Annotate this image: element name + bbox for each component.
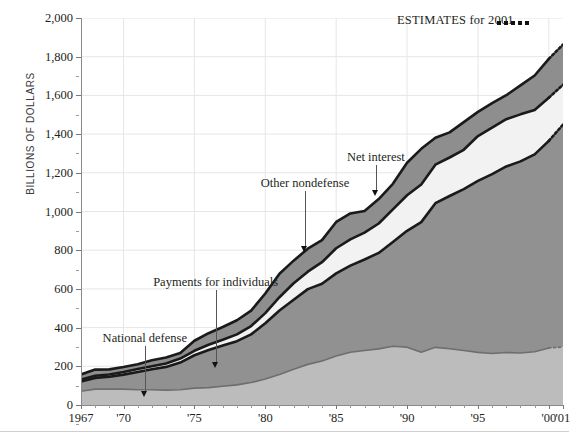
y-axis-tick-label: 1,800: [45, 49, 73, 64]
y-axis-minor-tick: [76, 76, 79, 77]
x-axis-tick-label: '01: [556, 411, 570, 426]
annotation-leader-line: [145, 346, 146, 391]
x-axis-minor-tick: [535, 405, 536, 408]
x-axis-tick-mark: [549, 405, 550, 409]
x-axis-tick-label: '90: [400, 411, 415, 426]
x-axis-tick-label: '70: [116, 411, 131, 426]
y-axis-tick-label: 800: [54, 243, 73, 258]
y-axis-tick-label: 1,200: [45, 165, 73, 180]
x-axis-minor-tick: [138, 405, 139, 408]
annotation-leader-line: [216, 290, 217, 362]
y-axis-tick-label: 2,000: [45, 11, 73, 26]
x-axis-tick-mark: [81, 405, 82, 409]
y-axis-minor-tick: [76, 115, 79, 116]
series-boundary-line-estimate: [549, 347, 563, 348]
x-axis-tick-mark: [124, 405, 125, 409]
x-axis-minor-tick: [506, 405, 507, 408]
x-axis-minor-tick: [393, 405, 394, 408]
x-axis-tick-mark: [478, 405, 479, 409]
x-axis-minor-tick: [251, 405, 252, 408]
y-axis-tick-label: 200: [54, 359, 73, 374]
x-axis-minor-tick: [180, 405, 181, 408]
x-axis-minor-tick: [464, 405, 465, 408]
x-axis-tick-label: 1967: [69, 411, 94, 426]
x-axis-minor-tick: [322, 405, 323, 408]
x-axis-tick-label: '00: [541, 411, 556, 426]
annotation-arrowhead: [141, 391, 147, 397]
y-axis-minor-tick: [76, 308, 79, 309]
x-axis-tick-label: '80: [258, 411, 273, 426]
x-axis-minor-tick: [294, 405, 295, 408]
y-axis-minor-tick: [76, 270, 79, 271]
annotation-label: National defense: [103, 331, 187, 346]
annotation-label: Other nondefense: [261, 176, 350, 191]
x-axis-minor-tick: [450, 405, 451, 408]
plot-area: [81, 18, 563, 405]
x-axis-tick-mark: [265, 405, 266, 409]
x-axis-minor-tick: [152, 405, 153, 408]
x-axis-minor-tick: [520, 405, 521, 408]
annotation-label: Payments for individuals: [153, 275, 278, 290]
x-axis-minor-tick: [365, 405, 366, 408]
x-axis-tick-mark: [194, 405, 195, 409]
y-axis: 02004006008001,0001,2001,4001,6001,8002,…: [0, 0, 73, 438]
x-axis-tick-mark: [407, 405, 408, 409]
y-axis-tick-label: 600: [54, 281, 73, 296]
x-axis-minor-tick: [279, 405, 280, 408]
x-axis-minor-tick: [166, 405, 167, 408]
x-axis-tick-mark: [336, 405, 337, 409]
x-axis-tick-mark: [563, 405, 564, 409]
x-axis-tick-label: '75: [187, 411, 202, 426]
annotation-arrowhead: [301, 246, 307, 252]
x-axis-minor-tick: [350, 405, 351, 408]
annotation-arrowhead: [372, 190, 378, 196]
y-axis-minor-tick: [76, 347, 79, 348]
y-axis-tick-label: 1,000: [45, 204, 73, 219]
x-axis-minor-tick: [379, 405, 380, 408]
annotation-leader-line: [376, 165, 377, 190]
y-axis-minor-tick: [76, 153, 79, 154]
annotation-leader-line: [305, 191, 306, 246]
x-axis-minor-tick: [95, 405, 96, 408]
x-axis-minor-tick: [435, 405, 436, 408]
annotation-arrowhead: [212, 362, 218, 368]
annotation-label: Net interest: [347, 150, 405, 165]
x-axis-minor-tick: [209, 405, 210, 408]
y-axis-tick-label: 400: [54, 320, 73, 335]
x-axis-minor-tick: [223, 405, 224, 408]
bottom-rule: [0, 431, 569, 432]
x-axis-minor-tick: [109, 405, 110, 408]
y-axis-tick-label: 1,400: [45, 127, 73, 142]
stacked-area-chart: [81, 18, 563, 405]
x-axis-minor-tick: [421, 405, 422, 408]
y-axis-line: [81, 18, 82, 405]
y-axis-minor-tick: [76, 192, 79, 193]
x-axis-minor-tick: [492, 405, 493, 408]
estimates-dotted-swatch: [497, 21, 531, 25]
x-axis-minor-tick: [308, 405, 309, 408]
y-axis-minor-tick: [76, 231, 79, 232]
x-axis-minor-tick: [237, 405, 238, 408]
x-axis-tick-label: '85: [329, 411, 344, 426]
y-axis-tick-label: 1,600: [45, 88, 73, 103]
y-axis-minor-tick: [76, 386, 79, 387]
x-axis-tick-label: '95: [471, 411, 486, 426]
